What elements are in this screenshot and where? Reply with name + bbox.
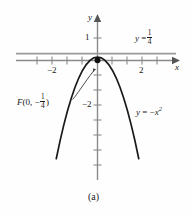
focus-label-close-paren: ) [46, 97, 49, 107]
directrix-fraction: 14 [147, 29, 152, 45]
figure-caption: (a) [88, 192, 99, 202]
focus-point [95, 57, 101, 63]
focus-fraction: 14 [40, 93, 45, 109]
directrix-frac-denominator: 4 [147, 38, 152, 46]
focus-leader-arrow [93, 68, 96, 72]
curve-equation-label: y = −x2 [136, 106, 162, 117]
parabola-figure: −2 2 1 −2 y x y =14 y = −x2 F(0, −14) (a… [0, 0, 193, 214]
x-axis-label: x [175, 63, 179, 72]
y-tick-label-neg2: −2 [82, 100, 92, 109]
y-tick-label-1: 1 [85, 33, 90, 42]
directrix-equals: = [141, 33, 146, 43]
focus-label-minus: − [35, 97, 40, 107]
x-tick-label-neg2: −2 [47, 66, 57, 75]
y-axis [94, 14, 102, 180]
focus-label: F(0, −14) [17, 93, 49, 109]
x-tick-label-2: 2 [139, 66, 144, 75]
directrix-label: y =14 [135, 29, 153, 45]
curve-exponent: 2 [159, 105, 162, 112]
focus-frac-denominator: 4 [40, 102, 45, 110]
y-axis-label: y [88, 13, 92, 22]
